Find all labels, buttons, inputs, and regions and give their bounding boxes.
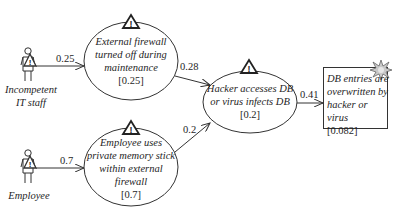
event-text-line: private memory stick [80,149,182,162]
outcome-text-line: hacker or virus [327,98,389,124]
outcome-probability: [0.082] [327,125,358,136]
event-probability: [0.2] [200,108,300,121]
edge-weight-hacker-outcome: 0.41 [300,89,318,100]
event-text-memory-stick: Employee uses private memory stick withi… [80,136,182,201]
warning-triangle-icon: ! [241,60,257,74]
edge-weight-staff-firewall: 0.25 [56,53,74,64]
svg-text:!: ! [29,58,32,67]
outcome-text-db-overwritten: DB entries are overwritten by hacker or … [327,72,389,137]
svg-text:!: ! [130,125,133,135]
event-text-line: External firewall [84,35,178,48]
actor-label-line: Incompetent [5,84,57,95]
svg-text:!: ! [248,64,251,74]
svg-text:!: ! [29,160,32,169]
edge-weight-employee-stick: 0.7 [60,155,73,166]
event-probability: [0.25] [84,74,178,87]
outcome-text-line: DB entries are [327,72,389,85]
actor-label-line: Employee [8,190,49,201]
actor-label-line: IT staff [16,97,46,108]
event-text-hacker-access: Hacker accesses DB or virus infects DB [… [200,82,300,121]
actor-label-incompetent-it-staff: Incompetent IT staff [2,83,60,109]
edge-weight-stick-hacker: 0.2 [183,124,196,135]
actor-label-employee: Employee [2,189,56,202]
event-text-line: Hacker accesses DB [200,82,300,95]
event-text-line: within external [80,162,182,175]
event-text-line: or virus infects DB [200,95,300,108]
event-probability: [0.7] [80,188,182,201]
event-text-firewall-off: External firewall turned off during main… [84,35,178,87]
event-text-line: maintenance [84,61,178,74]
outcome-text-line: overwritten by [327,85,389,98]
edge-weight-firewall-hacker: 0.28 [180,61,198,72]
event-text-line: firewall [80,175,182,188]
svg-text:!: ! [130,19,133,29]
event-text-line: Employee uses [80,136,182,149]
event-text-line: turned off during [84,48,178,61]
